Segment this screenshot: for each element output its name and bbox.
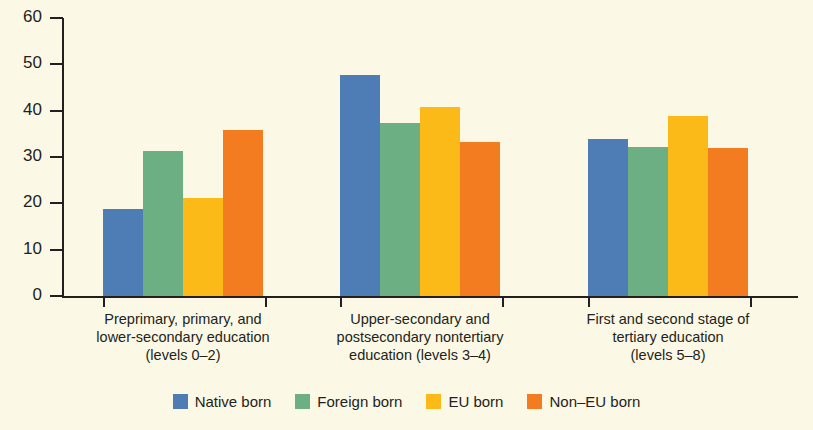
legend-swatch-icon bbox=[295, 394, 310, 409]
x-axis-tick-mark bbox=[103, 298, 105, 307]
category-label-line: Preprimary, primary, and bbox=[53, 310, 313, 328]
x-axis-tick-mark bbox=[750, 298, 752, 307]
bar bbox=[628, 147, 668, 296]
x-axis-category-label: Upper-secondary andpostsecondary nontert… bbox=[290, 310, 550, 364]
y-axis-ticks: 0102030405060 bbox=[0, 0, 64, 320]
bar bbox=[183, 198, 223, 296]
y-axis-tick: 0 bbox=[0, 295, 64, 297]
x-axis-line bbox=[62, 296, 798, 298]
y-axis-tick: 40 bbox=[0, 110, 64, 112]
x-axis-tick-mark bbox=[502, 298, 504, 307]
category-label-line: First and second stage of bbox=[538, 310, 798, 328]
y-axis-tick-label: 60 bbox=[0, 8, 42, 25]
y-axis-tick: 20 bbox=[0, 202, 64, 204]
plot-area bbox=[62, 18, 797, 296]
category-label-line: (levels 0–2) bbox=[53, 346, 313, 364]
bar bbox=[103, 209, 143, 296]
legend-swatch-icon bbox=[527, 394, 542, 409]
y-axis-tick: 30 bbox=[0, 156, 64, 158]
y-axis-tick: 10 bbox=[0, 249, 64, 251]
bar bbox=[588, 139, 628, 296]
bar bbox=[223, 130, 263, 296]
y-axis-tick-label: 10 bbox=[0, 240, 42, 257]
bar-group bbox=[340, 18, 500, 296]
bar bbox=[380, 123, 420, 296]
legend-label: EU born bbox=[448, 394, 503, 409]
bar bbox=[460, 142, 500, 296]
category-label-line: lower-secondary education bbox=[53, 328, 313, 346]
bar-chart-figure: 0102030405060 Preprimary, primary, andlo… bbox=[0, 0, 813, 430]
legend-item[interactable]: EU born bbox=[426, 394, 503, 409]
legend-label: Foreign born bbox=[317, 394, 402, 409]
category-label-line: education (levels 3–4) bbox=[290, 346, 550, 364]
legend-label: Non–EU born bbox=[549, 394, 640, 409]
y-axis-tick-label: 30 bbox=[0, 147, 42, 164]
legend-item[interactable]: Non–EU born bbox=[527, 394, 640, 409]
bar bbox=[143, 151, 183, 296]
y-axis-tick: 60 bbox=[0, 17, 64, 19]
y-axis-tick-label: 20 bbox=[0, 193, 42, 210]
legend-item[interactable]: Native born bbox=[173, 394, 272, 409]
bar bbox=[708, 148, 748, 296]
y-axis-tick-label: 50 bbox=[0, 54, 42, 71]
chart-legend: Native bornForeign bornEU bornNon–EU bor… bbox=[0, 394, 813, 409]
legend-item[interactable]: Foreign born bbox=[295, 394, 402, 409]
category-label-line: tertiary education bbox=[538, 328, 798, 346]
x-axis-category-label: First and second stage oftertiary educat… bbox=[538, 310, 798, 364]
bar-group bbox=[103, 18, 263, 296]
bar bbox=[420, 107, 460, 297]
x-axis-category-label: Preprimary, primary, andlower-secondary … bbox=[53, 310, 313, 364]
category-label-line: Upper-secondary and bbox=[290, 310, 550, 328]
y-axis-tick-label: 40 bbox=[0, 101, 42, 118]
bar-group bbox=[588, 18, 748, 296]
x-axis-tick-mark bbox=[588, 298, 590, 307]
y-axis-tick: 50 bbox=[0, 63, 64, 65]
legend-swatch-icon bbox=[426, 394, 441, 409]
x-axis-tick-mark bbox=[340, 298, 342, 307]
category-label-line: (levels 5–8) bbox=[538, 346, 798, 364]
legend-label: Native born bbox=[195, 394, 272, 409]
y-axis-tick-label: 0 bbox=[0, 286, 42, 303]
category-label-line: postsecondary nontertiary bbox=[290, 328, 550, 346]
bar bbox=[340, 75, 380, 296]
x-axis-tick-mark bbox=[265, 298, 267, 307]
bar bbox=[668, 116, 708, 296]
legend-swatch-icon bbox=[173, 394, 188, 409]
